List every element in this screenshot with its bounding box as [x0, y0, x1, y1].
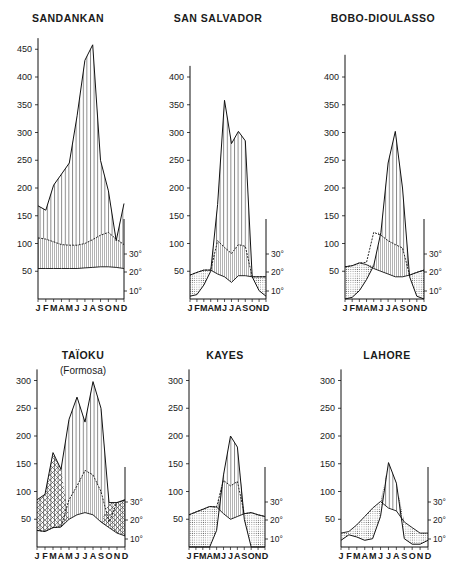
temperature-tick-label: 10°: [130, 534, 143, 544]
month-label: J: [74, 551, 79, 561]
temperature-tick-label: 30°: [129, 249, 142, 259]
month-label: J: [186, 551, 191, 561]
month-label: A: [89, 303, 96, 313]
y-tick-label: 50: [329, 266, 339, 276]
month-label: S: [98, 551, 104, 561]
temperature-tick-label: 10°: [271, 286, 284, 296]
y-tick-label: 150: [169, 211, 184, 221]
temperature-tick-label: 10°: [129, 286, 142, 296]
climate-panel-kayes: 50100150200250300JFMAMJJASOND10°20°30°: [168, 369, 283, 561]
y-tick-label: 50: [325, 514, 335, 524]
climate-panel-lahore: 50100150200250300JFMAMJJASOND10°20°30°: [320, 369, 446, 561]
y-tick-label: 400: [17, 72, 32, 82]
month-label: J: [35, 303, 40, 313]
y-tick-label: 100: [320, 487, 335, 497]
month-label: S: [241, 551, 247, 561]
month-label: D: [425, 551, 432, 561]
y-tick-label: 250: [16, 403, 31, 413]
month-label: J: [82, 551, 87, 561]
month-label: N: [414, 303, 421, 313]
y-tick-label: 100: [16, 487, 31, 497]
month-label: O: [248, 551, 255, 561]
month-label: D: [122, 551, 129, 561]
temperature-tick-label: 20°: [129, 267, 142, 277]
y-tick-label: 250: [324, 155, 339, 165]
month-label: N: [255, 551, 262, 561]
climate-panel-ta-oku: 50100150200250300JFMAMJJASOND10°20°30°: [16, 369, 143, 561]
y-tick-label: 300: [17, 128, 32, 138]
month-label: M: [65, 551, 73, 561]
station-title: BOBO-DIOULASSO: [323, 12, 443, 24]
month-label: M: [353, 551, 361, 561]
month-label: D: [263, 303, 270, 313]
y-tick-label: 300: [169, 128, 184, 138]
month-label: J: [378, 303, 383, 313]
y-tick-label: 200: [169, 183, 184, 193]
month-label: M: [370, 303, 378, 313]
month-label: O: [105, 303, 112, 313]
month-label: N: [114, 551, 121, 561]
y-tick-label: 250: [17, 155, 32, 165]
y-tick-label: 250: [168, 403, 183, 413]
month-label: S: [401, 551, 407, 561]
month-label: M: [214, 303, 222, 313]
y-tick-label: 100: [168, 487, 183, 497]
y-tick-label: 450: [17, 44, 32, 54]
month-label: A: [392, 303, 399, 313]
y-tick-label: 150: [168, 459, 183, 469]
station-title: SANDANKAN: [8, 12, 128, 24]
y-tick-label: 150: [16, 459, 31, 469]
station-title: LAHORE: [327, 349, 447, 361]
station-subtitle: (Formosa): [23, 365, 143, 376]
climate-panel-sandankan: 50100150200250300350400450JFMAMJJASOND10…: [17, 38, 142, 313]
climate-panel-san-salvador: 50100150200250300350400JFMAMJJASOND10°20…: [169, 66, 284, 313]
y-tick-label: 200: [320, 431, 335, 441]
month-label: M: [369, 551, 377, 561]
month-label: F: [346, 551, 352, 561]
y-tick-label: 200: [324, 183, 339, 193]
month-label: J: [342, 303, 347, 313]
y-tick-label: 50: [174, 266, 184, 276]
month-label: J: [34, 551, 39, 561]
y-tick-label: 150: [320, 459, 335, 469]
month-label: J: [386, 303, 391, 313]
month-label: S: [399, 303, 405, 313]
temperature-tick-label: 30°: [130, 497, 143, 507]
month-label: O: [249, 303, 256, 313]
y-tick-label: 400: [169, 72, 184, 82]
month-label: M: [200, 303, 208, 313]
month-label: N: [256, 303, 263, 313]
y-tick-label: 200: [17, 183, 32, 193]
y-tick-label: 100: [17, 239, 32, 249]
y-tick-label: 150: [17, 211, 32, 221]
y-tick-label: 350: [169, 100, 184, 110]
y-tick-label: 300: [324, 128, 339, 138]
y-tick-label: 350: [324, 100, 339, 110]
month-label: J: [229, 303, 234, 313]
temperature-tick-label: 20°: [270, 515, 283, 525]
month-label: O: [105, 551, 112, 561]
temperature-tick-label: 10°: [270, 534, 283, 544]
month-label: M: [49, 551, 57, 561]
month-label: J: [75, 303, 80, 313]
y-tick-label: 400: [324, 72, 339, 82]
month-label: F: [349, 303, 355, 313]
month-label: F: [42, 551, 48, 561]
month-label: M: [199, 551, 207, 561]
station-title: TAÏOKU: [23, 349, 143, 361]
temperature-tick-label: 10°: [429, 286, 442, 296]
y-tick-label: 300: [320, 376, 335, 386]
month-label: M: [356, 303, 364, 313]
y-tick-label: 50: [173, 514, 183, 524]
month-label: M: [50, 303, 58, 313]
temperature-tick-label: 20°: [433, 515, 446, 525]
month-label: D: [421, 303, 428, 313]
month-label: J: [378, 551, 383, 561]
temperature-tick-label: 20°: [429, 267, 442, 277]
y-tick-label: 100: [169, 239, 184, 249]
month-label: A: [361, 551, 368, 561]
y-tick-label: 150: [324, 211, 339, 221]
station-title: SAN SALVADOR: [158, 12, 278, 24]
y-tick-label: 50: [21, 514, 31, 524]
month-label: D: [262, 551, 269, 561]
